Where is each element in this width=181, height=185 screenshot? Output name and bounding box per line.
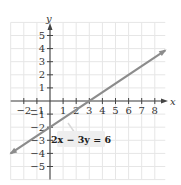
x-axis-label: x — [170, 96, 176, 107]
x-axis-arrow-icon — [161, 99, 168, 104]
x-tick-label: 6 — [125, 105, 131, 116]
y-tick-label: −5 — [30, 161, 45, 172]
y-axis-arrow-icon — [48, 23, 53, 30]
y-tick-label: 4 — [39, 43, 45, 54]
coordinate-graph: −2−112345678 54321−1−2−3−4−5 2x − 3y = 6… — [0, 0, 181, 185]
x-tick-label: 1 — [60, 105, 66, 116]
x-tick-label: 5 — [112, 105, 118, 116]
y-tick-label: 2 — [39, 69, 45, 80]
y-tick-label: −4 — [30, 148, 45, 159]
y-tick-label: 1 — [39, 82, 45, 93]
x-tick-label: 7 — [139, 105, 145, 116]
y-tick-label: −1 — [30, 109, 45, 120]
x-tick-label: 8 — [152, 105, 158, 116]
y-tick-label: 3 — [39, 56, 45, 67]
x-tick-label: 3 — [86, 105, 92, 116]
equation-label-text: 2x − 3y = 6 — [51, 134, 112, 145]
y-tick-label: 5 — [39, 30, 45, 41]
x-tick-label: 4 — [99, 105, 105, 116]
y-axis-label: y — [45, 13, 52, 24]
